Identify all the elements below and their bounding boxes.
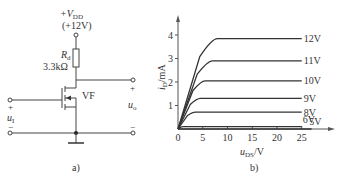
output-plus-label: + <box>130 83 135 93</box>
x-axis-arrow-icon <box>328 127 335 131</box>
resistor-value: 3.3kΩ <box>43 61 68 72</box>
arrow-icon <box>66 96 71 101</box>
figure: +VDD (+12V) Rd 3.3kΩ + VF + uI <box>0 0 346 182</box>
series-curve-12V <box>178 39 302 129</box>
x-tick-label: 5 <box>200 132 205 143</box>
series-curve-10V <box>178 81 302 129</box>
transistor-label: VF <box>82 90 95 101</box>
series-curve-9V <box>178 98 302 129</box>
mosfet-symbol <box>62 86 76 133</box>
x-tick-label: 0 <box>176 132 181 143</box>
x-tick-label: 10 <box>223 132 233 143</box>
output-minus-label: − <box>130 122 135 132</box>
caption-b: b) <box>250 162 258 174</box>
y-tick-label: 1 <box>168 100 173 111</box>
x-tick-label: 25 <box>297 132 307 143</box>
y-tick-label: 3 <box>168 53 173 64</box>
supply-value: (+12V) <box>62 20 92 32</box>
series-label-9V: 9V <box>304 93 317 104</box>
x-axis-label: uDS/V <box>240 146 265 159</box>
caption-a: a) <box>72 162 80 174</box>
series-label-11V: 11V <box>304 55 322 66</box>
input-minus-label: − <box>8 122 13 132</box>
supply-terminal <box>74 33 78 37</box>
x-tick-label: 20 <box>272 132 282 143</box>
input-terminal-minus <box>8 131 12 135</box>
output-terminal-plus <box>131 78 135 82</box>
circuit-diagram: +VDD (+12V) Rd 3.3kΩ + VF + uI <box>7 8 137 174</box>
series-label-10V: 10V <box>304 75 322 86</box>
y-axis-arrow-icon <box>176 15 180 22</box>
resistor-rd <box>73 49 79 67</box>
output-terminal-minus <box>131 131 135 135</box>
input-plus-label: + <box>8 102 13 112</box>
output-characteristics-chart: 05101520251234 12V11V10V9V8V6V5V iD/mA u… <box>156 15 335 174</box>
output-label: uo <box>128 99 137 112</box>
series-curve-11V <box>178 61 302 129</box>
x-tick-label: 15 <box>247 132 257 143</box>
y-tick-label: 4 <box>168 30 173 41</box>
series-label-12V: 12V <box>304 33 322 44</box>
series-label-5V: 5V <box>309 116 322 127</box>
